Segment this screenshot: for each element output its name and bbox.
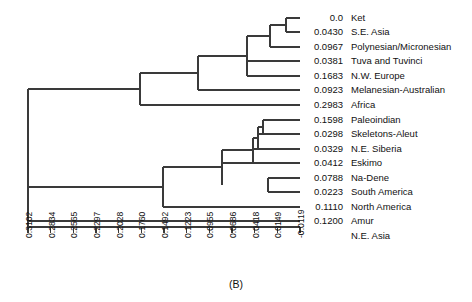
leaf-value: 0.0967: [303, 42, 343, 52]
leaf-value: 0.0381: [303, 56, 343, 66]
leaf-label: South America: [351, 187, 413, 197]
leaf-value: 0.2983: [303, 100, 343, 110]
leaf-value: 0.0223: [303, 187, 343, 197]
x-tick-label: 0.0418: [251, 212, 261, 238]
leaf-label: Amur: [351, 216, 374, 226]
leaf-value: 0.0: [303, 13, 343, 23]
leaf-value: 0.1110: [303, 202, 343, 212]
leaf-label: N.E. Asia: [351, 231, 390, 241]
x-tick-label: 0.2028: [115, 212, 125, 238]
leaf-value: 0.0329: [303, 144, 343, 154]
leaf-label: Skeletons-Aleut: [351, 129, 418, 139]
x-tick-label: 0.2565: [69, 212, 79, 238]
leaf-value: 0.1683: [303, 71, 343, 81]
leaf-value: 0.0430: [303, 27, 343, 37]
dendrogram-figure: 0.0 Ket 0.0430 S.E. Asia 0.0967 Polynesi…: [0, 0, 472, 302]
leaf-label: Ket: [351, 13, 365, 23]
x-tick-label: 0.1492: [160, 212, 170, 238]
leaf-label: Na-Dene: [351, 173, 389, 183]
leaf-label: Paleoindian: [351, 115, 401, 125]
leaf-label: North America: [351, 202, 411, 212]
x-tick-label: -0.0119: [296, 209, 306, 238]
x-tick-label: 0.3102: [24, 212, 34, 238]
leaf-label: Tuva and Tuvinci: [351, 56, 422, 66]
figure-caption: (B): [0, 278, 472, 290]
x-tick-label: 0.2834: [47, 212, 57, 238]
leaf-value: 0.0298: [303, 129, 343, 139]
leaf-value: 0.0788: [303, 173, 343, 183]
leaf-label: Eskimo: [351, 158, 382, 168]
x-tick-label: 0.0686: [228, 212, 238, 238]
leaf-label: Polynesian/Micronesian: [351, 42, 451, 52]
leaf-label: Melanesian-Australian: [351, 85, 445, 95]
leaf-value: 0.0412: [303, 158, 343, 168]
x-tick-label: 0.0149: [273, 212, 283, 238]
leaf-label: Africa: [351, 100, 375, 110]
x-tick-label: 0.0955: [205, 212, 215, 238]
leaf-value: 0.0923: [303, 85, 343, 95]
x-tick-label: 0.1760: [137, 212, 147, 238]
x-tick-label: 0.2297: [92, 212, 102, 238]
leaf-label: S.E. Asia: [351, 27, 390, 37]
x-tick-label: 0.1223: [183, 212, 193, 238]
leaf-value: 0.1200: [303, 216, 343, 226]
leaf-label: N.W. Europe: [351, 71, 405, 81]
leaf-value: 0.1598: [303, 115, 343, 125]
leaf-label: N.E. Siberia: [351, 144, 402, 154]
